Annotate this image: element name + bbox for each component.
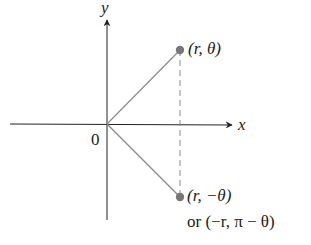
polar-symmetry-diagram [0, 0, 311, 245]
x-axis-label: x [238, 115, 246, 135]
lower-point-label: (r, −θ) [187, 186, 231, 206]
point-upper [176, 46, 184, 54]
upper-point-label: (r, θ) [188, 39, 221, 59]
segment-to-lower-point [107, 124, 180, 197]
x-axis [10, 124, 232, 125]
origin-label: 0 [91, 130, 100, 150]
point-lower [176, 193, 184, 201]
lower-point-alt-label: or (−r, π − θ) [187, 212, 275, 232]
y-axis-label: y [101, 0, 109, 18]
segment-to-upper-point [107, 50, 180, 124]
